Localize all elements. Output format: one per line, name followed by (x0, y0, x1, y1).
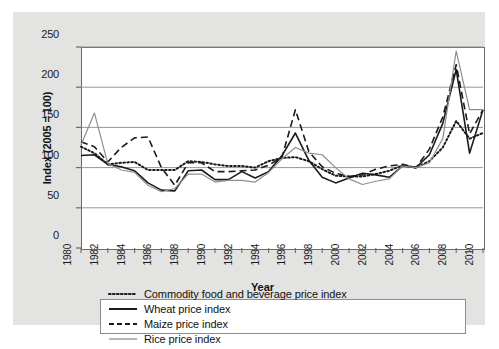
legend-label-0: Commodity food and beverage price index (144, 288, 347, 300)
series-line-wheat-price-index (81, 70, 483, 191)
legend-label-2: Maize price index (144, 318, 228, 330)
legend-entry-0: Commodity food and beverage price index (108, 287, 322, 302)
legend-entry-3: Rice price index (108, 332, 253, 347)
legend-label-3: Rice price index (144, 333, 221, 345)
legend-swatch-dashed-icon (108, 319, 138, 329)
chart-panel: Index (2005 = 100) Year 050100150200250 … (13, 12, 485, 325)
chart-legend: Commodity food and beverage price indexW… (100, 299, 466, 334)
series-line-commodity-food-and-beverage-price-index (81, 121, 483, 176)
series-line-rice-price-index (81, 51, 483, 192)
legend-swatch-solid-icon (108, 334, 138, 344)
legend-swatch-dotted-icon (108, 289, 138, 299)
legend-entry-1: Wheat price index (108, 302, 253, 317)
legend-swatch-solid-icon (108, 304, 138, 314)
legend-label-1: Wheat price index (144, 303, 230, 315)
legend-entry-2: Maize price index (108, 317, 322, 332)
